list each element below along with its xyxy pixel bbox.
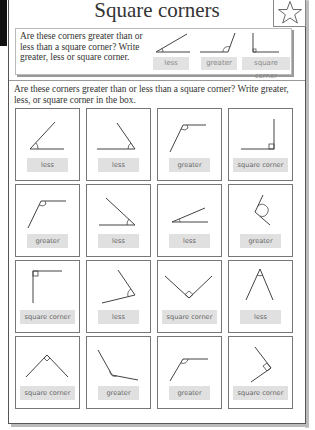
page-title: Square corners xyxy=(9,0,305,23)
angle-cell-16: square corner xyxy=(228,336,293,409)
answer-box[interactable]: greater xyxy=(169,158,210,172)
star-box xyxy=(273,0,306,27)
angle-cell-2: less xyxy=(86,108,151,181)
answer-box[interactable]: square corner xyxy=(233,158,288,172)
angle-cell-15: greater xyxy=(157,336,222,409)
answer-box[interactable]: greater xyxy=(27,234,68,248)
right-angle-diagram xyxy=(158,261,221,311)
acute-angle-diagram xyxy=(87,109,150,159)
answer-box[interactable]: greater xyxy=(169,386,210,400)
angle-cell-5: greater xyxy=(15,184,80,257)
answer-box[interactable]: square corner xyxy=(20,386,75,400)
obtuse-angle-diagram xyxy=(158,109,221,159)
angle-cell-3: greater xyxy=(157,108,222,181)
right-angle-diagram xyxy=(229,337,292,387)
example-label-greater: greater xyxy=(201,57,237,70)
answer-box[interactable]: greater xyxy=(98,386,139,400)
obtuse-angle-diagram xyxy=(16,185,79,235)
answer-box[interactable]: less xyxy=(98,234,139,248)
angle-cell-9: square corner xyxy=(15,260,80,333)
section-divider xyxy=(9,80,305,81)
obtuse-angle-diagram xyxy=(229,185,292,235)
angle-cell-13: square corner xyxy=(15,336,80,409)
right-angle-diagram xyxy=(249,31,291,55)
acute-angle-diagram xyxy=(87,185,150,235)
answer-box[interactable]: square corner xyxy=(233,386,288,400)
instructions-text: Are these corners greater than or less t… xyxy=(14,84,299,105)
answer-box[interactable]: less xyxy=(98,158,139,172)
acute-angle-diagram xyxy=(158,185,221,235)
star-outline-icon xyxy=(277,0,303,25)
answer-box[interactable]: less xyxy=(169,234,210,248)
example-text: Are these corners greater than or less t… xyxy=(20,31,148,63)
angle-cell-10: less xyxy=(86,260,151,333)
answer-box[interactable]: greater xyxy=(240,234,281,248)
right-angle-diagram xyxy=(229,109,292,159)
obtuse-angle-diagram xyxy=(198,31,240,55)
right-angle-diagram xyxy=(16,337,79,387)
right-angle-diagram xyxy=(16,261,79,311)
obtuse-angle-diagram xyxy=(87,337,150,387)
example-label-less: less xyxy=(153,57,189,70)
angle-cell-8: greater xyxy=(228,184,293,257)
answer-box[interactable]: less xyxy=(240,310,281,324)
worksheet-page: Square corners Are these corners greater… xyxy=(8,0,306,424)
acute-angle-diagram xyxy=(16,109,79,159)
answer-box[interactable]: less xyxy=(98,310,139,324)
answer-box[interactable]: square corner xyxy=(162,310,217,324)
example-label-square-corner: square corner xyxy=(242,57,290,70)
answer-box[interactable]: square corner xyxy=(20,310,75,324)
angle-cell-6: less xyxy=(86,184,151,257)
angle-cell-11: square corner xyxy=(157,260,222,333)
angle-cell-12: less xyxy=(228,260,293,333)
example-box: Are these corners greater than or less t… xyxy=(15,28,292,75)
angle-cell-14: greater xyxy=(86,336,151,409)
page-edge-bar xyxy=(0,0,7,46)
acute-angle-diagram xyxy=(87,261,150,311)
acute-angle-diagram xyxy=(152,31,194,55)
angle-cell-4: square corner xyxy=(228,108,293,181)
angle-cell-1: less xyxy=(15,108,80,181)
acute-angle-diagram xyxy=(229,261,292,311)
obtuse-angle-diagram xyxy=(158,337,221,387)
angle-cell-7: less xyxy=(157,184,222,257)
answer-box[interactable]: less xyxy=(27,158,68,172)
